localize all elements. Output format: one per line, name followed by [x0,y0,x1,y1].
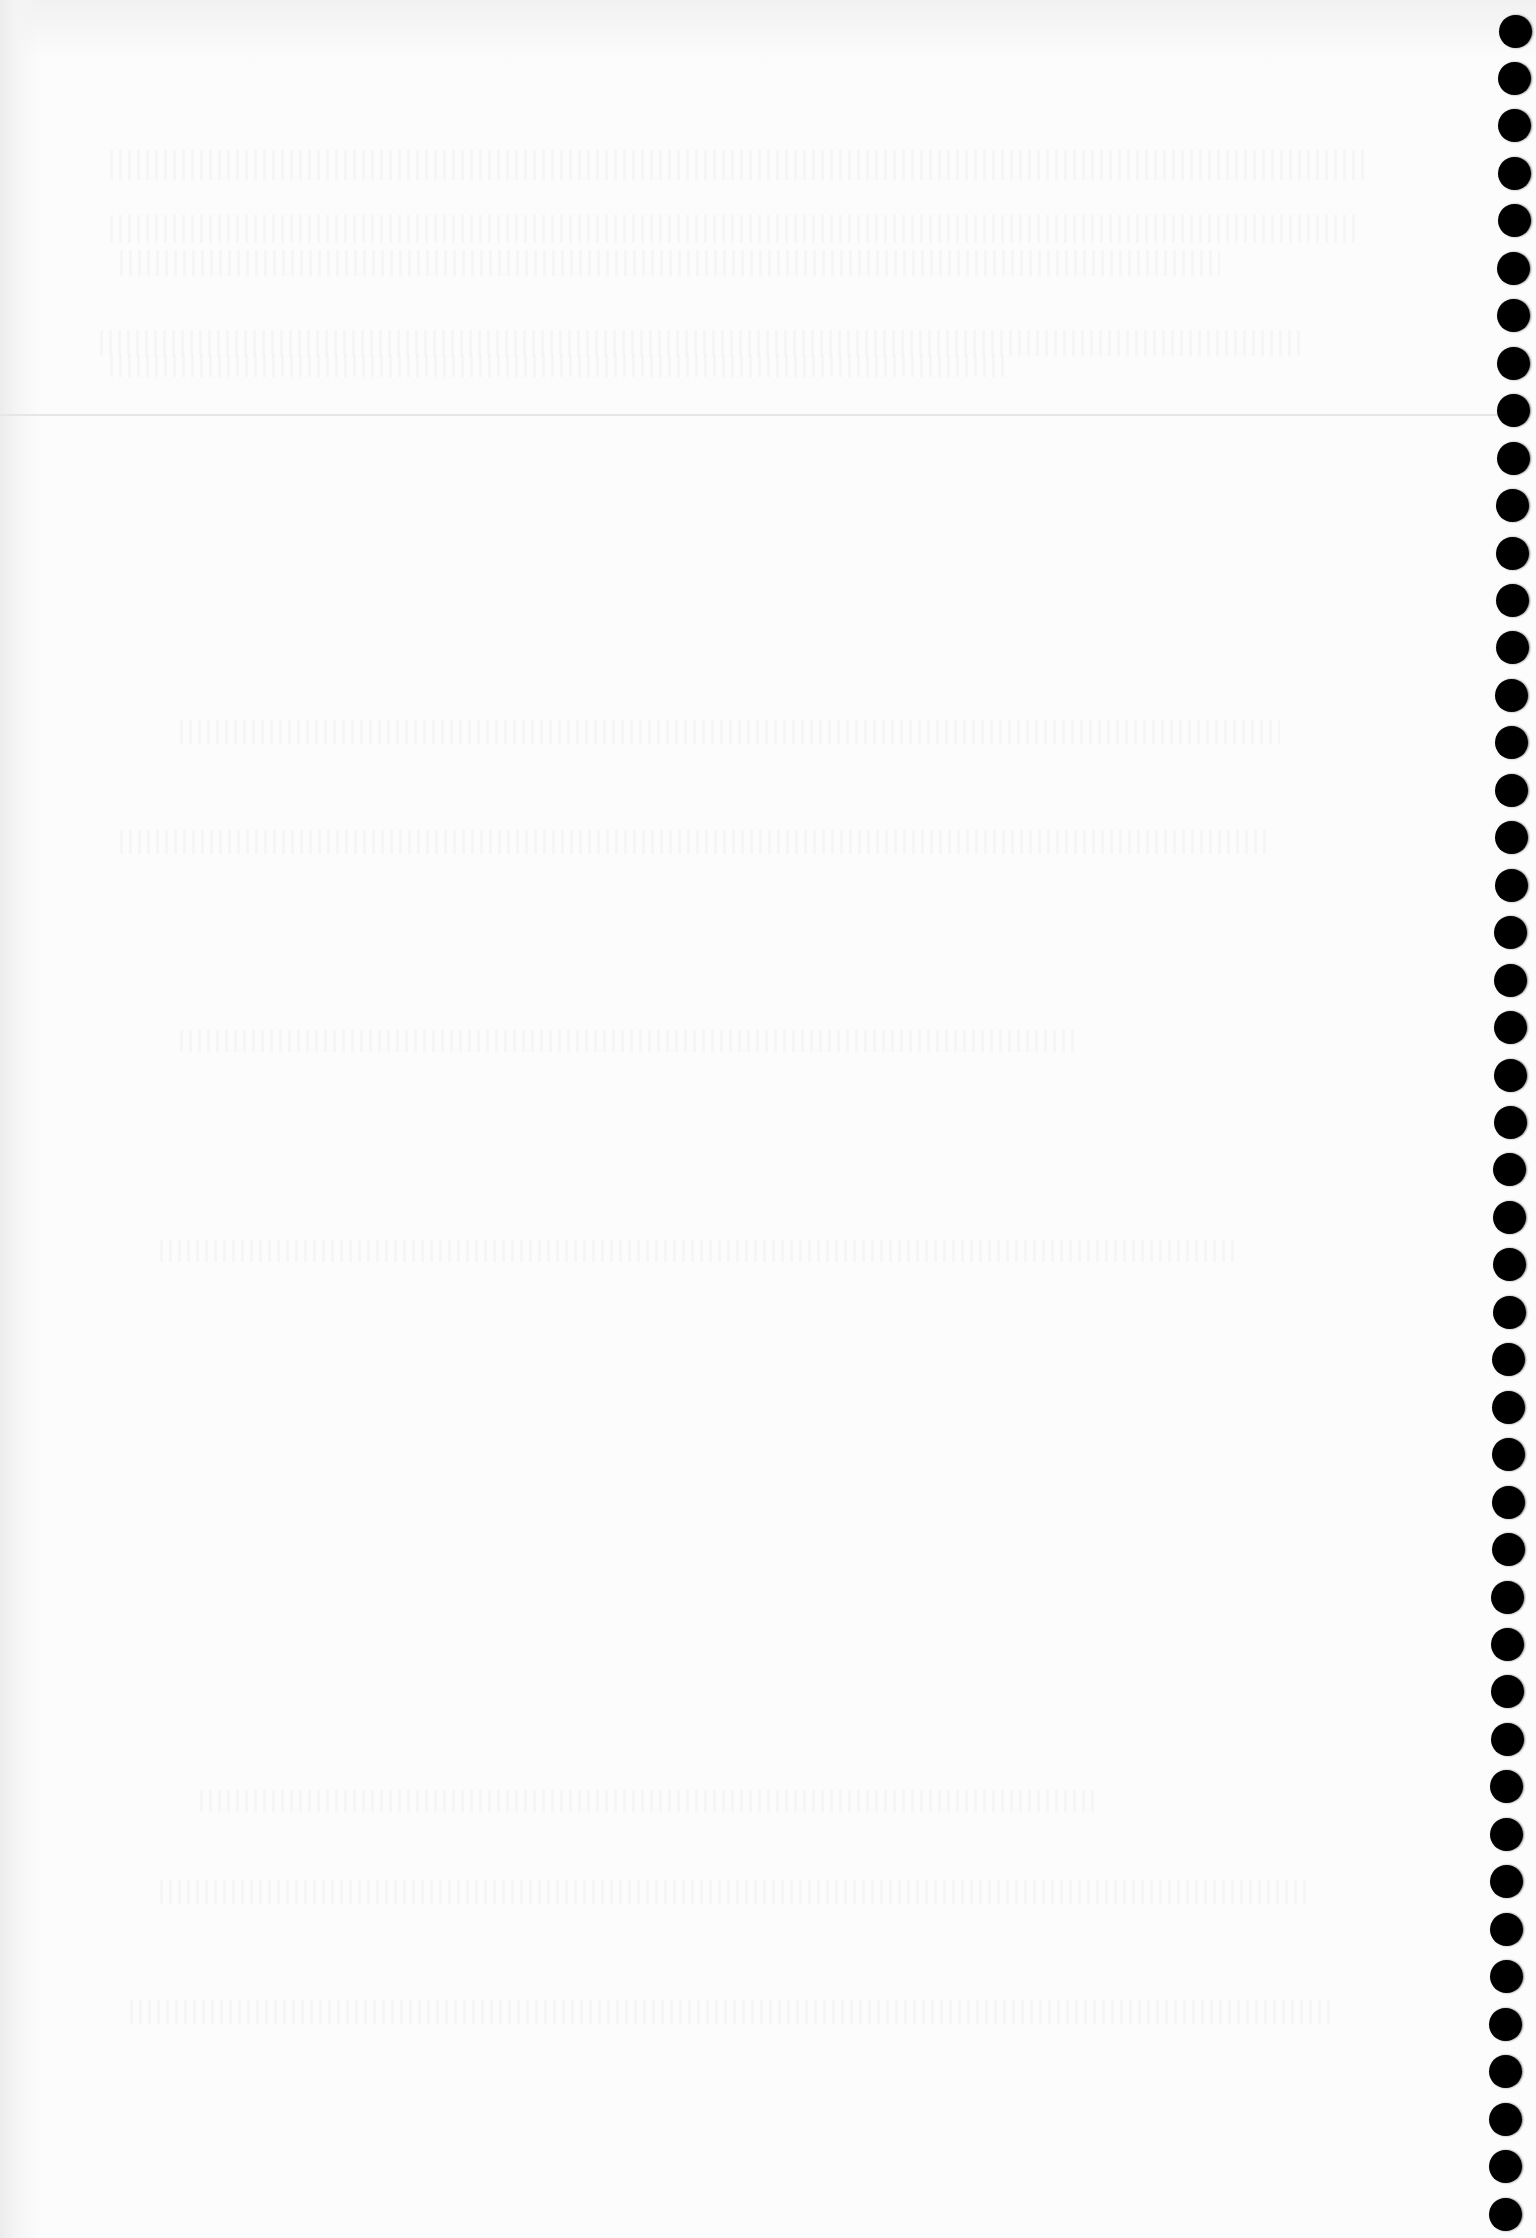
binding-hole [1498,204,1531,237]
binding-hole [1494,916,1527,949]
binding-hole [1490,1865,1523,1898]
bleed-through-band [180,720,1280,744]
binding-hole [1489,2008,1522,2041]
scan-top-shading [0,0,1536,60]
binding-hole [1489,2198,1522,2231]
bleed-through-band [110,355,1010,377]
bleed-through-band [160,1240,1240,1262]
horizontal-rule-line [0,414,1500,416]
binding-hole [1489,2150,1522,2183]
binding-hole [1497,299,1530,332]
bleed-through-band [100,330,1300,356]
binding-hole [1496,584,1529,617]
binding-hole [1492,1486,1525,1519]
binding-hole [1497,347,1530,380]
binding-hole [1490,1818,1523,1851]
binding-hole [1495,679,1528,712]
bleed-through-band [130,2000,1330,2024]
binding-hole [1494,1011,1527,1044]
binding-hole [1495,774,1528,807]
binding-hole [1491,1675,1524,1708]
bleed-through-band [110,215,1360,243]
binding-hole [1491,1628,1524,1661]
notebook-page [0,0,1536,2238]
bleed-through-band [160,1880,1310,1904]
binding-hole [1493,1153,1526,1186]
binding-hole [1496,631,1529,664]
binding-hole [1495,869,1528,902]
binding-hole [1491,1581,1524,1614]
binding-hole [1490,1770,1523,1803]
binding-hole [1491,1723,1524,1756]
binding-hole [1498,62,1531,95]
binding-hole [1493,1248,1526,1281]
binding-hole [1489,2103,1522,2136]
bleed-through-band [120,830,1270,854]
binding-hole [1494,964,1527,997]
bleed-through-band [200,1790,1100,1812]
binding-hole [1492,1343,1525,1376]
binding-hole [1492,1391,1525,1424]
binding-hole [1492,1533,1525,1566]
binding-hole [1493,1201,1526,1234]
binding-hole [1497,252,1530,285]
bleed-through-band [110,150,1370,180]
binding-hole [1495,726,1528,759]
binding-hole [1497,394,1530,427]
binding-hole [1498,109,1531,142]
scan-left-edge-shading [0,0,40,2238]
binding-hole [1496,537,1529,570]
binding-hole [1494,1059,1527,1092]
bleed-through-band [120,250,1220,276]
binding-hole [1490,1913,1523,1946]
binding-hole [1498,157,1531,190]
binding-hole [1496,489,1529,522]
binding-hole [1490,1960,1523,1993]
binding-hole [1494,1106,1527,1139]
binding-hole [1489,2055,1522,2088]
binding-hole [1493,1296,1526,1329]
binding-hole [1492,1438,1525,1471]
bleed-through-band [180,1030,1080,1052]
binding-hole [1495,821,1528,854]
binding-hole [1497,442,1530,475]
